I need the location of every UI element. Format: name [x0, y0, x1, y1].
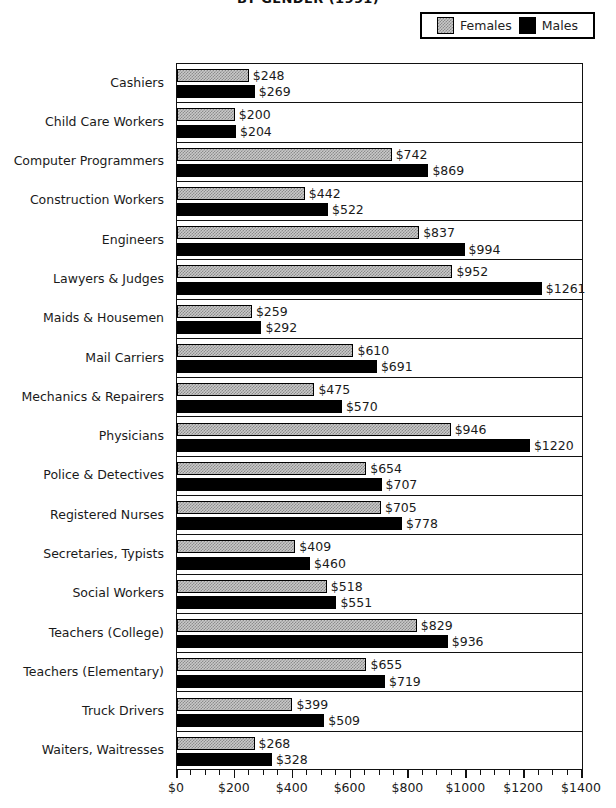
bar-females[interactable] [177, 423, 451, 436]
bar-males[interactable] [177, 360, 377, 373]
bar-value-label: $654 [370, 462, 402, 475]
category-label: Construction Workers [30, 193, 164, 207]
bar-value-label: $328 [276, 753, 308, 766]
bar-value-label: $475 [318, 383, 350, 396]
x-tick-label: $1200 [503, 780, 543, 795]
bar-females[interactable] [177, 383, 314, 396]
bar-value-label: $742 [396, 148, 428, 161]
x-tick-major [581, 770, 583, 778]
bar-females[interactable] [177, 344, 353, 357]
bar-value-label: $509 [328, 714, 360, 727]
bar-males[interactable] [177, 203, 328, 216]
x-tick-minor [422, 770, 423, 775]
bar-value-label: $570 [346, 400, 378, 413]
bar-females[interactable] [177, 698, 292, 711]
bar-males[interactable] [177, 478, 382, 491]
x-tick-minor [480, 770, 481, 775]
bar-value-label: $869 [432, 164, 464, 177]
bar-females[interactable] [177, 462, 366, 475]
bar-value-label: $829 [421, 619, 453, 632]
bar-value-label: $268 [259, 737, 291, 750]
bar-value-label: $259 [256, 305, 288, 318]
category-label: Child Care Workers [45, 115, 164, 129]
bar-value-label: $204 [240, 125, 272, 138]
females-swatch-icon [437, 17, 454, 34]
bar-row: $742$869 [177, 143, 582, 182]
bar-males[interactable] [177, 243, 465, 256]
x-tick-label: $200 [218, 780, 250, 795]
x-tick-minor [190, 770, 191, 775]
bar-females[interactable] [177, 737, 255, 750]
bar-males[interactable] [177, 400, 342, 413]
x-tick-minor [263, 770, 264, 775]
x-tick-major [176, 770, 178, 778]
x-tick-label: $1400 [561, 780, 601, 795]
bar-value-label: $994 [469, 243, 501, 256]
x-tick-label: $1000 [445, 780, 485, 795]
category-label: Lawyers & Judges [53, 272, 164, 286]
bar-value-label: $946 [455, 423, 487, 436]
bar-females[interactable] [177, 540, 295, 553]
category-label: Physicians [99, 429, 164, 443]
bar-row: $837$994 [177, 221, 582, 260]
bar-females[interactable] [177, 580, 327, 593]
bar-females[interactable] [177, 108, 235, 121]
bar-females[interactable] [177, 69, 249, 82]
bar-males[interactable] [177, 85, 255, 98]
bar-row: $946$1220 [177, 418, 582, 457]
bar-males[interactable] [177, 125, 236, 138]
bar-males[interactable] [177, 675, 385, 688]
bar-row: $610$691 [177, 339, 582, 378]
bar-males[interactable] [177, 439, 530, 452]
legend-label-males: Males [542, 18, 578, 33]
x-tick-label: $800 [392, 780, 424, 795]
bar-row: $655$719 [177, 653, 582, 692]
bar-value-label: $460 [314, 557, 346, 570]
x-tick-minor [248, 770, 249, 775]
bar-females[interactable] [177, 619, 417, 632]
category-label: Maids & Housemen [43, 311, 164, 325]
bar-males[interactable] [177, 282, 542, 295]
bar-value-label: $399 [296, 698, 328, 711]
bar-males[interactable] [177, 321, 261, 334]
x-tick-minor [379, 770, 380, 775]
bar-males[interactable] [177, 517, 402, 530]
bar-females[interactable] [177, 501, 381, 514]
bar-females[interactable] [177, 148, 392, 161]
bar-males[interactable] [177, 557, 310, 570]
category-label: Registered Nurses [50, 508, 164, 522]
bar-males[interactable] [177, 635, 448, 648]
bar-males[interactable] [177, 596, 336, 609]
x-tick-minor [277, 770, 278, 775]
x-tick-major [523, 770, 525, 778]
bar-females[interactable] [177, 187, 305, 200]
bar-males[interactable] [177, 164, 428, 177]
bar-value-label: $200 [239, 108, 271, 121]
bar-females[interactable] [177, 265, 452, 278]
bar-value-label: $952 [456, 265, 488, 278]
bar-females[interactable] [177, 226, 419, 239]
x-tick-label: $600 [334, 780, 366, 795]
bar-row: $442$522 [177, 182, 582, 221]
bar-males[interactable] [177, 714, 324, 727]
bar-value-label: $837 [423, 226, 455, 239]
bar-females[interactable] [177, 305, 252, 318]
x-axis: $0$200$400$600$800$1000$1200$1400 [176, 770, 583, 808]
bar-value-label: $719 [389, 675, 421, 688]
category-label: Waiters, Waitresses [42, 743, 164, 757]
legend-label-females: Females [460, 18, 512, 33]
bar-males[interactable] [177, 753, 272, 766]
category-label: Social Workers [72, 586, 164, 600]
bar-row: $248$269 [177, 64, 582, 103]
bar-value-label: $610 [357, 344, 389, 357]
bar-value-label: $778 [406, 517, 438, 530]
category-label: Teachers (Elementary) [23, 665, 164, 679]
category-label: Truck Drivers [82, 704, 164, 718]
bar-row: $475$570 [177, 378, 582, 417]
category-label: Cashiers [110, 76, 164, 90]
x-tick-minor [436, 770, 437, 775]
bar-value-label: $1261 [546, 282, 586, 295]
x-tick-major [350, 770, 352, 778]
bar-value-label: $1220 [534, 439, 574, 452]
bar-females[interactable] [177, 658, 366, 671]
